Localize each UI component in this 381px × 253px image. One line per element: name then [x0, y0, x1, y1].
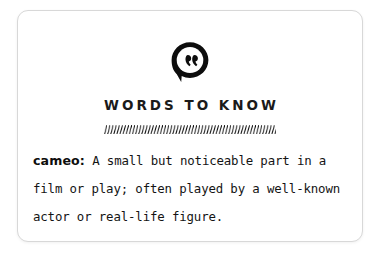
definition-block: cameo: A small but noticeable part in a …	[33, 147, 350, 231]
icon-container	[18, 40, 362, 84]
words-to-know-card: WORDS TO KNOW cameo: A small but noticea…	[17, 10, 363, 242]
hatched-divider	[104, 125, 276, 134]
screenshot-root: WORDS TO KNOW cameo: A small but noticea…	[0, 0, 381, 253]
definition-term: cameo:	[33, 153, 85, 168]
quote-speech-bubble-icon	[168, 40, 212, 84]
page-title: WORDS TO KNOW	[18, 97, 362, 113]
divider-container	[18, 125, 362, 134]
